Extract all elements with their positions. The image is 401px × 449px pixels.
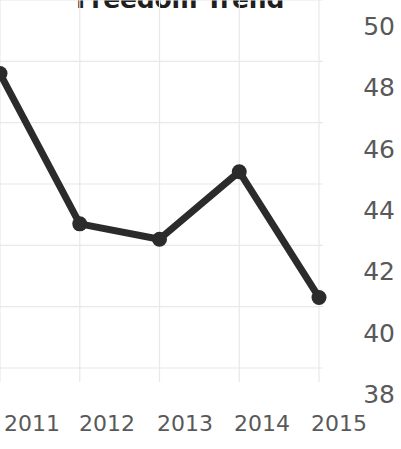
data-point-2012 — [72, 216, 87, 231]
xtick-label-2011: 2011 — [4, 413, 60, 435]
xtick-label-2015: 2015 — [311, 413, 367, 435]
data-point-markers — [0, 66, 327, 305]
data-point-2014 — [232, 164, 247, 179]
xtick-label-2013: 2013 — [157, 413, 213, 435]
vertical-gridlines — [0, 0, 319, 382]
line-chart: Freedom Trend 50 48 46 44 42 40 38 — [0, 0, 401, 449]
ytick-label-40: 40 — [347, 320, 395, 345]
ytick-label-48: 48 — [347, 75, 395, 100]
horizontal-gridlines — [0, 0, 323, 368]
xtick-label-2012: 2012 — [79, 413, 135, 435]
ytick-label-42: 42 — [347, 259, 395, 284]
ytick-label-46: 46 — [347, 136, 395, 161]
ytick-label-50: 50 — [347, 14, 395, 39]
xtick-label-2014: 2014 — [234, 413, 290, 435]
data-point-2015 — [312, 290, 327, 305]
ytick-label-44: 44 — [347, 198, 395, 223]
data-point-2013 — [152, 232, 167, 247]
plot-canvas — [0, 0, 379, 423]
ytick-label-38: 38 — [347, 382, 395, 407]
